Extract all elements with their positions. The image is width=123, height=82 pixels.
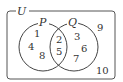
venn-diagram: U P Q 1 4 8 2 5 3 6 7 9 10 xyxy=(0,0,123,82)
p-only-element-4: 4 xyxy=(28,41,34,52)
q-only-element-3: 3 xyxy=(74,31,80,42)
intersection-element-2: 2 xyxy=(56,34,62,45)
set-q-label: Q xyxy=(68,16,77,29)
q-only-element-7: 7 xyxy=(73,53,79,64)
intersection-element-5: 5 xyxy=(56,46,62,57)
p-only-element-8: 8 xyxy=(39,50,45,61)
p-only-element-1: 1 xyxy=(34,28,40,39)
outside-element-9: 9 xyxy=(97,22,103,33)
outside-element-10: 10 xyxy=(96,65,109,76)
q-only-element-6: 6 xyxy=(81,43,87,54)
universe-label: U xyxy=(17,5,27,18)
